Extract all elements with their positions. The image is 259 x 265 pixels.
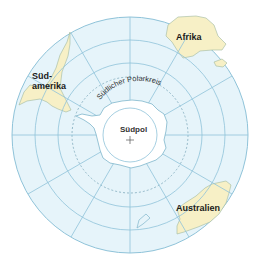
australia-label: Australien — [176, 203, 220, 213]
south-pole-label: Südpol — [120, 125, 147, 134]
south-pole-map: Südpol Afrika Süd- amerika Australien Sü… — [0, 0, 259, 265]
south-america-label-line2: amerika — [32, 81, 67, 91]
africa-label: Afrika — [176, 32, 203, 42]
south-america-label-line1: Süd- — [32, 71, 52, 81]
